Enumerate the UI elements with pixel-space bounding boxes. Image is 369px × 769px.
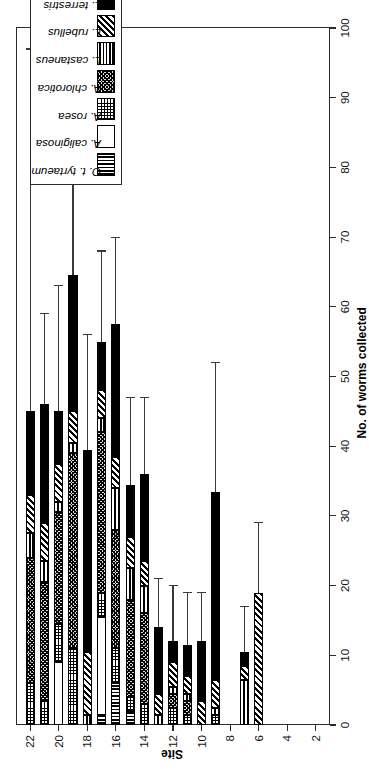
error-bar-cap-site-9 — [211, 362, 220, 363]
bar-segment-vertical-stripes-site-15 — [126, 711, 135, 725]
bar-segment-solid-black-site-18 — [83, 450, 92, 652]
legend-label-1: A. caliginosa — [36, 138, 101, 150]
bar-segment-fine-grid-site-9 — [211, 715, 220, 725]
bar-segment-solid-black-site-21 — [40, 404, 49, 522]
bar-segment-diagonal-stripes-site-10 — [197, 701, 206, 725]
bar-segment-solid-black-site-9 — [211, 492, 220, 680]
bar-segment-checkered-site-14 — [140, 613, 149, 704]
y-tick-20 — [58, 725, 59, 731]
bar-site-21 — [40, 404, 49, 725]
y-tick-label-6: 6 — [253, 735, 265, 759]
bar-site-22 — [26, 411, 35, 725]
bar-segment-checkered-site-19 — [68, 453, 77, 648]
error-bar-cap-site-12 — [169, 585, 178, 586]
error-bar-cap-site-6 — [254, 522, 263, 523]
bar-segment-horizontal-stripes-site-18 — [83, 715, 92, 725]
bar-segment-checkered-site-15 — [126, 600, 135, 698]
bar-site-15 — [126, 485, 135, 725]
error-bar-cap-site-13 — [154, 578, 163, 579]
y-tick-label-16: 16 — [110, 735, 122, 759]
bar-site-7 — [240, 652, 249, 725]
x-tick-30 — [330, 515, 336, 516]
bar-segment-open-white-site-17 — [97, 617, 106, 715]
bar-site-19 — [68, 275, 77, 725]
bar-segment-horizontal-stripes-site-16 — [111, 488, 120, 530]
bar-segment-horizontal-stripes-site-9 — [211, 708, 220, 715]
bar-segment-diagonal-stripes-site-15 — [126, 537, 135, 568]
y-tick-label-18: 18 — [81, 735, 93, 759]
y-tick-label-20: 20 — [53, 735, 65, 759]
error-bar-stem-site-13 — [158, 579, 159, 628]
bar-segment-fine-grid-site-21 — [40, 701, 49, 725]
bar-segment-solid-black-site-12 — [168, 641, 177, 662]
error-bar-cap-site-21 — [40, 313, 49, 314]
bar-segment-horizontal-stripes-site-15 — [126, 568, 135, 599]
bar-segment-vertical-stripes-site-16 — [111, 683, 120, 725]
error-bar-stem-site-9 — [215, 363, 216, 492]
bar-site-12 — [168, 641, 177, 725]
x-tick-0 — [330, 724, 336, 725]
x-tick-label-70: 70 — [339, 231, 351, 244]
x-tick-label-40: 40 — [339, 440, 351, 453]
bar-segment-solid-black-site-13 — [154, 627, 163, 693]
y-tick-18 — [87, 725, 88, 731]
error-bar-cap-site-14 — [140, 397, 149, 398]
bar-segment-horizontal-stripes-site-20 — [54, 502, 63, 512]
legend-label-6: L. terrestris — [43, 0, 101, 12]
bar-site-9 — [211, 492, 220, 725]
error-bar-cap-site-18 — [83, 334, 92, 335]
bar-segment-horizontal-stripes-site-13 — [154, 715, 163, 725]
x-tick-label-50: 50 — [339, 370, 351, 383]
x-tick-label-60: 60 — [339, 300, 351, 313]
bar-segment-vertical-stripes-site-17 — [97, 715, 106, 725]
error-bar-stem-site-18 — [87, 335, 88, 450]
y-tick-16 — [115, 725, 116, 731]
x-tick-70 — [330, 237, 336, 238]
bar-site-18 — [83, 450, 92, 725]
error-bar-cap-site-17 — [97, 250, 106, 251]
error-bar-cap-site-16 — [111, 237, 120, 238]
y-tick-label-10: 10 — [196, 735, 208, 759]
error-bar-stem-site-17 — [101, 251, 102, 342]
x-tick-label-80: 80 — [339, 161, 351, 174]
bar-segment-checkered-site-16 — [111, 530, 120, 648]
bar-site-11 — [183, 645, 192, 725]
error-bar-stem-site-15 — [130, 397, 131, 484]
y-tick-label-2: 2 — [310, 735, 322, 759]
bar-segment-fine-grid-site-22 — [26, 683, 35, 725]
bar-segment-fine-grid-site-17 — [97, 593, 106, 617]
y-tick-22 — [30, 725, 31, 731]
y-tick-14 — [144, 725, 145, 731]
axes-top-rule — [16, 28, 17, 725]
x-tick-80 — [330, 167, 336, 168]
bar-segment-solid-black-site-7 — [240, 652, 249, 666]
bar-segment-solid-black-site-20 — [54, 411, 63, 463]
legend-box: O. t. tyrtaeumA. caliginosaA. roseaA. ch… — [30, 0, 122, 185]
bar-segment-diagonal-stripes-site-9 — [211, 680, 220, 708]
bar-segment-solid-black-site-10 — [197, 641, 206, 700]
y-tick-label-8: 8 — [224, 735, 236, 759]
x-axis-title: No. of worms collected — [355, 307, 369, 438]
error-bar-cap-site-20 — [54, 285, 63, 286]
x-tick-40 — [330, 446, 336, 447]
error-bar-stem-site-6 — [258, 523, 259, 593]
error-bar-cap-site-7 — [240, 606, 249, 607]
bar-segment-fine-grid-site-14 — [140, 704, 149, 725]
bar-segment-fine-grid-site-20 — [54, 624, 63, 662]
error-bar-stem-site-21 — [44, 314, 45, 405]
x-tick-label-20: 20 — [339, 579, 351, 592]
bar-segment-checkered-site-11 — [183, 701, 192, 715]
y-tick-label-4: 4 — [281, 735, 293, 759]
bar-segment-fine-grid-site-15 — [126, 697, 135, 711]
bar-segment-checkered-site-17 — [97, 432, 106, 592]
error-bar-stem-site-20 — [58, 286, 59, 411]
bar-segment-solid-black-site-14 — [140, 474, 149, 561]
bar-segment-diagonal-stripes-site-11 — [183, 676, 192, 693]
bar-segment-horizontal-stripes-site-21 — [40, 561, 49, 582]
bar-segment-solid-black-site-22 — [26, 411, 35, 495]
bar-site-17 — [97, 342, 106, 725]
error-bar-stem-site-14 — [144, 397, 145, 474]
